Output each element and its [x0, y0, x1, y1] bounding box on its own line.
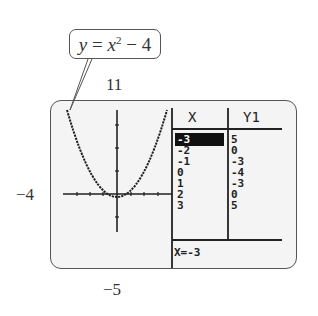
callout-pointer	[70, 59, 92, 110]
column-header-y1: Y1	[243, 112, 260, 123]
column-header-x: X	[188, 112, 196, 123]
figure: y = x2 − 4 11 −4 −5 X Y1 -3 -2 -1 0 1 2 …	[0, 0, 318, 316]
status-line: X=-3	[174, 247, 201, 258]
y-cell[interactable]: 5	[231, 200, 238, 211]
graph-overlay	[0, 0, 318, 316]
x-cell[interactable]: 3	[177, 200, 184, 211]
